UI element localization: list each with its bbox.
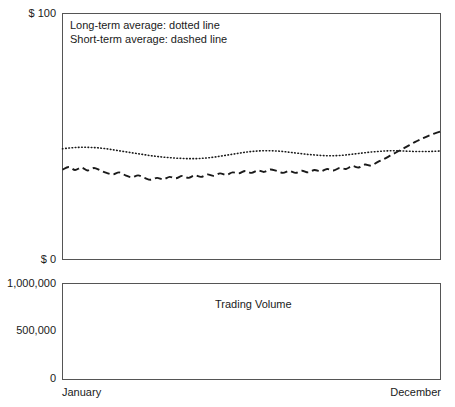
x-axis-tick-december: December	[380, 386, 441, 398]
legend-entry-long-term: Long-term average: dotted line	[70, 18, 227, 32]
price-panel-legend: Long-term average: dotted line Short-ter…	[70, 18, 227, 46]
price-axis-tick-0: $ 0	[6, 253, 56, 265]
x-axis-tick-january: January	[62, 386, 101, 398]
volume-axis-tick-0: 0	[30, 372, 56, 384]
short-term-average-line	[63, 132, 441, 180]
stock-price-and-volume-figure: $ 100 $ 0 1,000,000 500,000 0 January De…	[0, 0, 455, 407]
price-axis-tick-100: $ 100	[6, 7, 56, 19]
long-term-average-line	[63, 147, 441, 158]
volume-panel-title: Trading Volume	[215, 298, 292, 310]
volume-axis-tick-500000: 500,000	[0, 324, 56, 336]
chart-canvas	[0, 0, 455, 407]
legend-entry-short-term: Short-term average: dashed line	[70, 32, 227, 46]
volume-axis-tick-1000000: 1,000,000	[0, 277, 56, 289]
price-panel-frame	[63, 14, 441, 260]
